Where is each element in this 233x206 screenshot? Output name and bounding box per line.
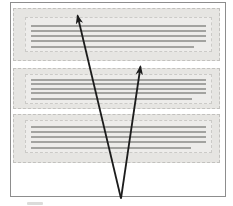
- arrow-to-block-2: [121, 67, 141, 199]
- figure-canvas: [0, 0, 233, 206]
- arrows-overlay: [0, 0, 233, 206]
- arrow-to-block-1: [78, 16, 122, 199]
